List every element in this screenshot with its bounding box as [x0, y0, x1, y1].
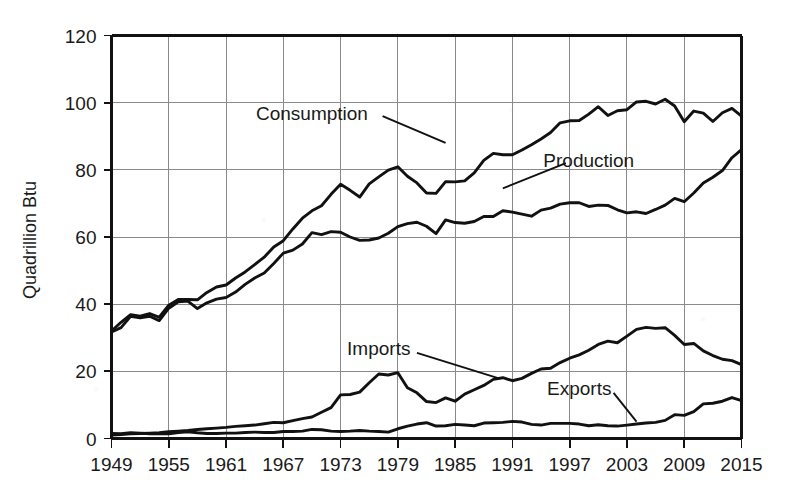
x-tick-label: 1973 [319, 454, 361, 475]
x-tick-label: 1991 [491, 454, 533, 475]
x-tick-label: 1961 [205, 454, 247, 475]
x-tick-label: 1949 [90, 454, 132, 475]
annotation-label-consumption: Consumption [256, 103, 368, 124]
y-tick-label: 120 [65, 26, 97, 47]
x-tick-label: 1997 [549, 454, 591, 475]
y-axis-title: Quadrillion Btu [20, 181, 40, 299]
x-tick-label: 1985 [434, 454, 476, 475]
y-tick-labels-group: 020406080100120 [65, 26, 97, 450]
series-line-production [112, 150, 742, 332]
tickmarks-group [104, 36, 742, 448]
y-tick-label: 60 [75, 227, 96, 248]
annotation-leader-consumption [383, 116, 446, 143]
y-axis-title-group: Quadrillion Btu [20, 181, 40, 299]
data-series-group [112, 99, 742, 435]
series-line-imports [112, 327, 742, 435]
y-tick-label: 100 [65, 93, 97, 114]
energy-overview-chart: 020406080100120 194919551961196719731979… [0, 0, 799, 499]
gridlines-group [112, 36, 742, 439]
x-tick-label: 1955 [148, 454, 190, 475]
x-tick-label: 2009 [663, 454, 705, 475]
chart-canvas: 020406080100120 194919551961196719731979… [0, 0, 799, 499]
y-tick-label: 40 [75, 294, 96, 315]
x-tick-label: 1979 [377, 454, 419, 475]
series-annotations-group: ConsumptionProductionImportsExports [256, 103, 637, 422]
annotation-leader-imports [417, 353, 498, 378]
annotation-label-imports: Imports [347, 338, 410, 359]
annotation-label-exports: Exports [547, 378, 611, 399]
x-tick-label: 1967 [262, 454, 304, 475]
annotation-leader-exports [614, 393, 637, 422]
y-tick-label: 0 [86, 429, 97, 450]
x-tick-label: 2015 [720, 454, 762, 475]
y-tick-label: 20 [75, 361, 96, 382]
x-tick-label: 2003 [606, 454, 648, 475]
x-tick-labels-group: 1949195519611967197319791985199119972003… [90, 454, 762, 475]
y-tick-label: 80 [75, 160, 96, 181]
